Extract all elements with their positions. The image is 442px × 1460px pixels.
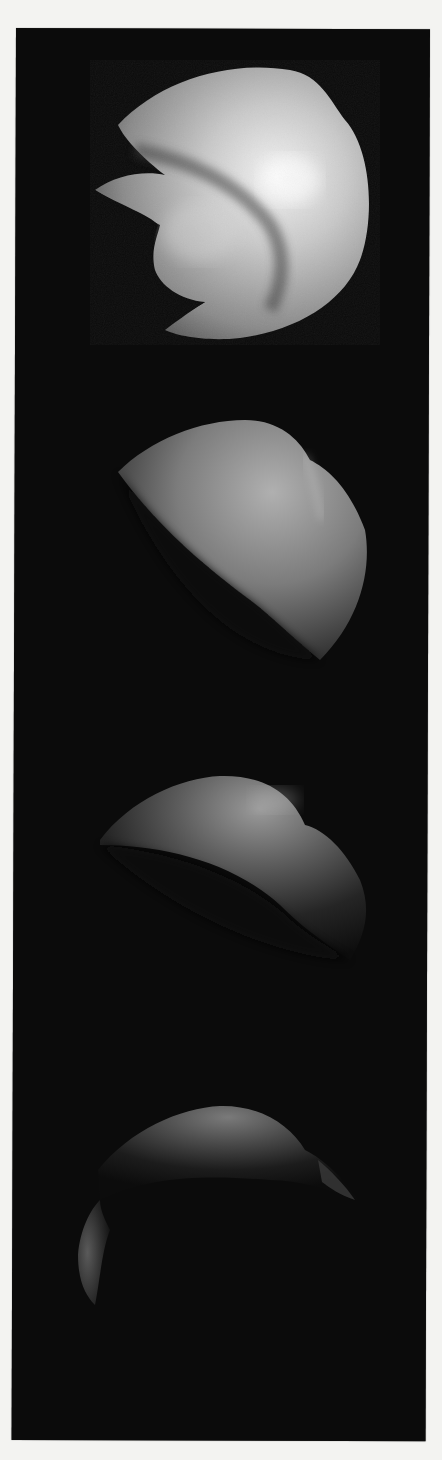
shape-frame-1 [90,60,380,345]
shape-frame-3 [100,776,366,960]
shape-frame-4 [78,1106,358,1305]
rendered-shape-sequence [0,0,442,1460]
shape-frame-2 [118,420,367,660]
